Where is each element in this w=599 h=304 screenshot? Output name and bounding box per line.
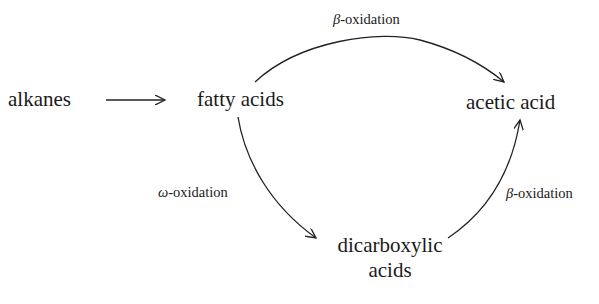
label-text: -oxidation [168, 184, 228, 200]
node-alkanes: alkanes [8, 89, 71, 110]
node-dicarboxylic-line2: acids [323, 260, 457, 281]
node-dicarboxylic-acids: dicarboxylic acids [323, 235, 457, 281]
label-text: -oxidation [340, 11, 400, 27]
label-beta-oxidation-right: β-oxidation [506, 186, 573, 201]
label-omega-oxidation: ω-oxidation [158, 185, 228, 200]
pathway-arrows [0, 0, 599, 304]
omega-symbol: ω [158, 184, 168, 200]
node-acetic-acid: acetic acid [466, 92, 555, 113]
label-text: -oxidation [513, 185, 573, 201]
label-beta-oxidation-top: β-oxidation [333, 12, 400, 27]
arrow-dicarboxylic-to-acetic-acid [448, 120, 520, 238]
node-fatty-acids: fatty acids [197, 89, 284, 110]
arrow-fatty-acids-to-dicarboxylic [238, 117, 316, 238]
node-dicarboxylic-line1: dicarboxylic [323, 235, 457, 256]
arrow-fatty-acids-to-acetic-acid [255, 36, 504, 82]
